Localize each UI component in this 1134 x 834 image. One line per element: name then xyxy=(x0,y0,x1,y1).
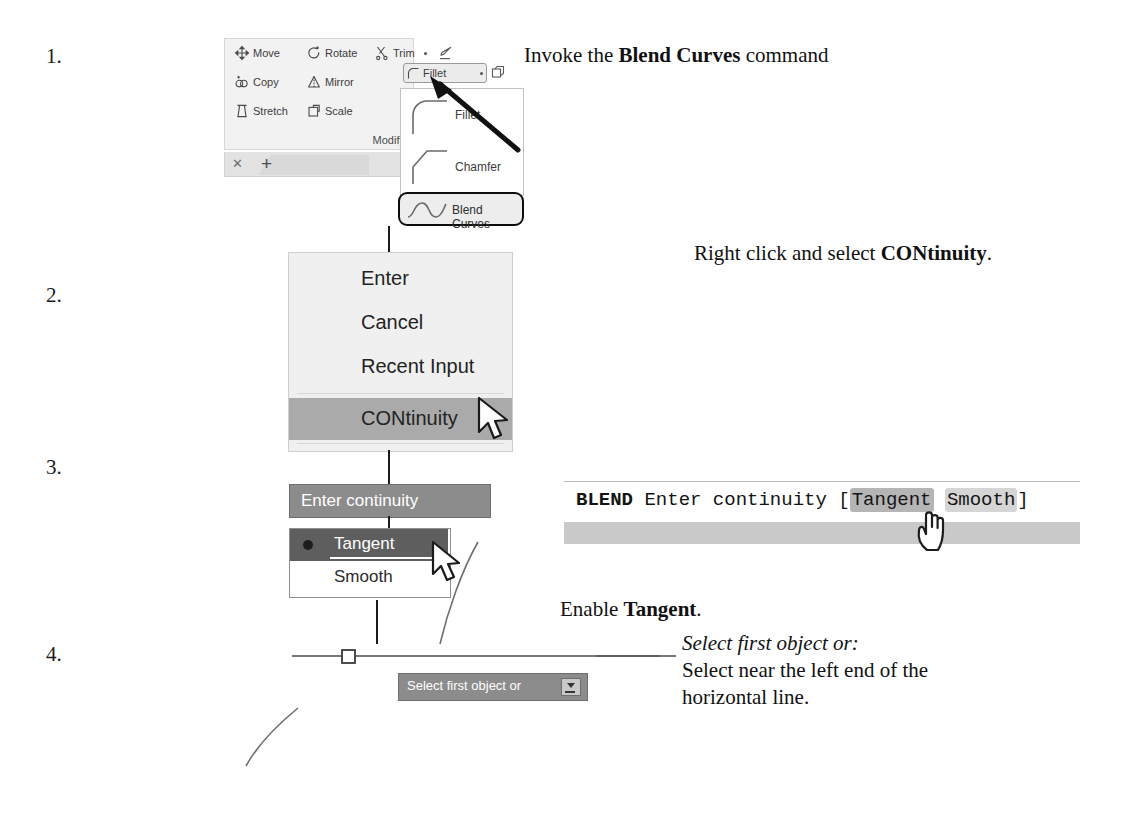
step-number-2: 2. xyxy=(46,283,62,308)
context-menu-label-recent-input: Recent Input xyxy=(361,355,474,378)
trim-icon xyxy=(375,46,389,60)
step-3-text-post: . xyxy=(696,597,701,621)
erase-icon xyxy=(437,45,453,61)
arrow-cursor-icon xyxy=(476,396,516,448)
command-line-text: BLEND Enter continuity [Tangent Smooth] xyxy=(576,489,1029,511)
ribbon-button-mirror[interactable]: Mirror xyxy=(307,75,354,89)
step-number-3: 3. xyxy=(46,455,62,480)
step-2-instruction: Right click and select CONtinuity. xyxy=(694,240,1114,267)
step-3-text-pre: Enable xyxy=(560,597,624,621)
command-line-command: BLEND xyxy=(576,489,633,511)
ribbon-button-scale[interactable]: Scale xyxy=(307,104,353,118)
hand-pointer-icon xyxy=(913,506,955,558)
option-label-smooth: Smooth xyxy=(334,567,393,587)
context-menu-separator-bottom xyxy=(297,443,504,444)
leader-line xyxy=(596,648,666,664)
copy-icon xyxy=(235,75,249,89)
dynamic-prompt-select-label: Select first object or xyxy=(407,678,521,693)
close-icon[interactable]: ✕ xyxy=(232,156,243,171)
step-4-text-line1: Select near the left end of the xyxy=(682,658,928,682)
context-menu-label-enter: Enter xyxy=(361,267,409,290)
step-3-text-bold: Tangent xyxy=(624,597,697,621)
ribbon-button-trim[interactable]: Trim xyxy=(375,46,427,60)
modify-ribbon-panel: Move Rotate Trim xyxy=(224,38,414,150)
chevron-down-icon[interactable] xyxy=(424,52,427,55)
dynamic-prompt-label: Enter continuity xyxy=(301,491,418,511)
context-menu-item-cancel[interactable]: Cancel xyxy=(289,301,512,345)
move-icon xyxy=(235,46,249,60)
command-line-option-smooth[interactable]: Smooth xyxy=(945,488,1017,512)
context-menu-item-recent-input[interactable]: Recent Input xyxy=(289,345,512,389)
step-2-text-pre: Right click and select xyxy=(694,241,881,265)
ribbon-button-copy[interactable]: Copy xyxy=(235,75,279,89)
plus-icon[interactable]: + xyxy=(261,153,272,175)
connector-line-1 xyxy=(388,226,390,254)
command-line-window: BLEND Enter continuity [Tangent Smooth] xyxy=(564,481,1080,544)
connector-line-2 xyxy=(388,450,390,484)
ribbon-label-trim: Trim xyxy=(393,47,415,59)
command-line-prompt: Enter continuity xyxy=(644,489,826,511)
arc-object-lower xyxy=(240,700,320,834)
step-1-instruction: Invoke the Blend Curves command xyxy=(524,42,1044,69)
context-menu-label-continuity: CONtinuity xyxy=(361,407,458,430)
step-2-text-post: . xyxy=(987,241,992,265)
ribbon-label-move: Move xyxy=(253,47,280,59)
option-label-tangent: Tangent xyxy=(334,534,395,554)
step-number-1: 1. xyxy=(46,44,62,69)
command-line-bracket-close: ] xyxy=(1017,489,1028,511)
step-1-text-bold: Blend Curves xyxy=(618,43,740,67)
command-line-input-strip[interactable] xyxy=(564,522,1080,544)
ribbon-button-move[interactable]: Move xyxy=(235,46,280,60)
ribbon-label-rotate: Rotate xyxy=(325,47,357,59)
step-4-prompt-italic: Select first object or: xyxy=(682,631,859,655)
ribbon-label-scale: Scale xyxy=(325,105,353,117)
flyout-label-chamfer: Chamfer xyxy=(455,160,501,174)
command-line-bracket-open: [ xyxy=(838,489,849,511)
mirror-icon xyxy=(307,75,321,89)
step-2-text-bold: CONtinuity xyxy=(881,241,987,265)
rotate-icon xyxy=(307,46,321,60)
step-1-text-pre: Invoke the xyxy=(524,43,618,67)
step-4-text-line2: horizontal line. xyxy=(682,685,809,709)
step-1-text-post: command xyxy=(740,43,828,67)
dynamic-prompt-enter-continuity: Enter continuity xyxy=(289,484,491,518)
step-4-instruction: Select first object or: Select near the … xyxy=(682,630,1062,711)
arc-object-upper xyxy=(420,540,490,650)
context-menu-separator xyxy=(297,393,504,394)
square-grip xyxy=(342,650,355,663)
step-3-instruction: Enable Tangent. xyxy=(560,596,980,623)
dynamic-prompt-select-first-object: Select first object or xyxy=(398,673,588,701)
ribbon-button-rotate[interactable]: Rotate xyxy=(307,46,357,60)
ribbon-label-copy: Copy xyxy=(253,76,279,88)
stretch-icon xyxy=(235,104,249,118)
flyout-item-blend-curves[interactable]: Blend Curves xyxy=(398,192,524,226)
context-menu-item-enter[interactable]: Enter xyxy=(289,257,512,301)
ribbon-label-stretch: Stretch xyxy=(253,105,288,117)
dropdown-arrow-icon[interactable] xyxy=(561,678,581,696)
scale-icon xyxy=(307,104,321,118)
annotation-arrow xyxy=(400,66,530,156)
ribbon-button-stretch[interactable]: Stretch xyxy=(235,104,288,118)
ribbon-label-mirror: Mirror xyxy=(325,76,354,88)
document-tab-bar: ✕ + xyxy=(224,152,414,177)
ribbon-button-erase[interactable] xyxy=(437,45,453,61)
option-underline xyxy=(330,557,434,559)
connector-line-4 xyxy=(376,600,378,644)
flyout-label-blend-curves: Blend Curves xyxy=(452,203,522,231)
step-number-4: 4. xyxy=(46,642,62,667)
radio-selected-icon xyxy=(303,540,313,550)
context-menu-label-cancel: Cancel xyxy=(361,311,423,334)
